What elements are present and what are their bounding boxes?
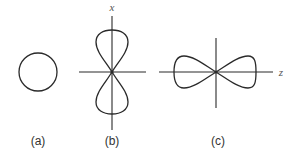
panel-b: x (b) [79,1,146,148]
origin-dot [110,70,113,73]
axis-label-x: x [109,1,115,13]
circle-shape [19,53,57,91]
orbital-diagram: (a) x (b) z (c) [0,0,294,157]
origin-dot [214,70,217,73]
panel-a: (a) [19,53,57,148]
panel-a-label: (a) [31,134,46,148]
panel-b-label: (b) [105,134,120,148]
axis-label-z: z [278,66,284,78]
panel-c-label: (c) [211,134,225,148]
panel-c: z (c) [159,38,284,148]
